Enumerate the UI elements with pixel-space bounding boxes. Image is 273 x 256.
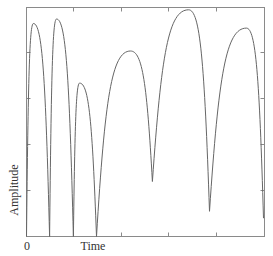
plot-frame — [27, 8, 265, 237]
x-axis-label: Time — [81, 239, 106, 253]
amplitude-chart: 0 Time Amplitude — [0, 0, 273, 256]
y-axis-label: Amplitude — [7, 164, 21, 215]
origin-tick-label: 0 — [24, 239, 30, 253]
axis-ticks — [27, 8, 265, 237]
amplitude-curve — [27, 10, 264, 237]
